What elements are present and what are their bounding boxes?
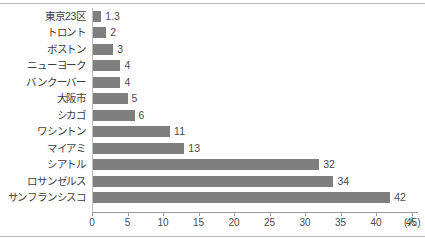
x-axis-unit-label: (人) [404, 217, 421, 228]
bar [92, 27, 106, 38]
x-tick-label: 5 [125, 217, 131, 228]
bar-chart-figure: 東京23区1.3トロント2ボストン3ニューヨーク4バンクーバー4大阪市5シカゴ6… [0, 0, 425, 245]
bar [92, 44, 113, 55]
category-label: ロサンゼルス [0, 176, 86, 187]
bar-row: ニューヨーク4 [0, 58, 425, 75]
category-label: マイアミ [0, 143, 86, 154]
bar-value-label: 34 [337, 176, 349, 187]
bar-row: バンクーバー4 [0, 74, 425, 91]
x-tick-label: 10 [157, 217, 168, 228]
category-label: バンクーバー [0, 77, 86, 88]
bar [92, 159, 319, 170]
bar [92, 60, 120, 71]
y-axis-line [92, 8, 93, 213]
x-tick-label: 30 [299, 217, 310, 228]
bar-value-label: 3 [117, 44, 123, 55]
category-label: シカゴ [0, 110, 86, 121]
x-tick-mark [376, 213, 377, 216]
bar [92, 126, 170, 137]
x-tick-mark [234, 213, 235, 216]
bar-value-label: 11 [174, 126, 185, 137]
x-tick-label: 35 [335, 217, 346, 228]
category-label: 東京23区 [0, 11, 86, 22]
bar-row: シアトル32 [0, 157, 425, 174]
category-label: サンフランシスコ [0, 192, 86, 203]
bar-value-label: 2 [110, 27, 116, 38]
bar-value-label: 5 [132, 93, 138, 104]
bar-value-label: 4 [124, 77, 130, 88]
bar-row: ワシントン11 [0, 124, 425, 141]
category-label: ワシントン [0, 126, 86, 137]
x-tick-label: 40 [370, 217, 381, 228]
bar-value-label: 32 [323, 159, 335, 170]
bar-value-label: 6 [139, 110, 145, 121]
x-tick-mark [92, 213, 93, 216]
bar-row: シカゴ6 [0, 107, 425, 124]
plot-area: 東京23区1.3トロント2ボストン3ニューヨーク4バンクーバー4大阪市5シカゴ6… [0, 8, 425, 213]
bar [92, 93, 128, 104]
x-tick-label: 25 [264, 217, 275, 228]
bar [92, 176, 333, 187]
bar-value-label: 1.3 [105, 11, 120, 22]
x-tick-label: 15 [193, 217, 204, 228]
category-label: シアトル [0, 159, 86, 170]
bar-row: マイアミ13 [0, 140, 425, 157]
bar [92, 110, 135, 121]
category-label: ボストン [0, 44, 86, 55]
bar [92, 143, 184, 154]
bar-value-label: 4 [124, 60, 130, 71]
bar-row: 東京23区1.3 [0, 8, 425, 25]
bar-row: ボストン3 [0, 41, 425, 58]
top-divider [0, 3, 425, 4]
x-tick-label: 20 [228, 217, 239, 228]
x-tick-mark [270, 213, 271, 216]
bar-row: トロント2 [0, 25, 425, 42]
x-tick-mark [305, 213, 306, 216]
bar [92, 77, 120, 88]
bar [92, 11, 101, 22]
bar-row: ロサンゼルス34 [0, 173, 425, 190]
bottom-divider [0, 236, 425, 237]
bar-row: 大阪市5 [0, 91, 425, 108]
x-tick-mark [412, 213, 413, 216]
category-label: 大阪市 [0, 93, 86, 104]
x-tick-mark [163, 213, 164, 216]
x-tick-label: 0 [89, 217, 95, 228]
category-label: トロント [0, 27, 86, 38]
x-tick-mark [128, 213, 129, 216]
x-tick-mark [341, 213, 342, 216]
bar-value-label: 42 [394, 192, 406, 203]
bar-row: サンフランシスコ42 [0, 190, 425, 207]
x-axis-line [92, 212, 418, 213]
bar [92, 192, 390, 203]
bar-value-label: 13 [188, 143, 200, 154]
x-tick-mark [199, 213, 200, 216]
category-label: ニューヨーク [0, 60, 86, 71]
